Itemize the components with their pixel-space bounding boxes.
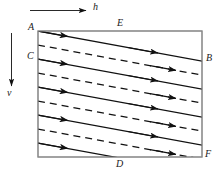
streamline-solid [38, 31, 212, 63]
streamline-dashed [38, 101, 212, 133]
vertex-label-c: C [27, 51, 34, 61]
vertex-label-e: E [117, 18, 123, 28]
vertex-label-b: B [206, 53, 212, 63]
vertex-label-a: A [28, 22, 34, 32]
streamline-solid [38, 87, 212, 119]
axis-label-h: h [93, 2, 98, 12]
shear-flow-figure: h v A C E B D F [0, 0, 222, 183]
streamline-dashed [38, 73, 212, 105]
streamline-solid [38, 115, 212, 147]
streamline-dashed [38, 45, 212, 77]
vertex-label-d: D [116, 159, 123, 169]
vertex-label-f: F [205, 149, 211, 159]
streamline-solid [38, 143, 212, 175]
streamline-solid [38, 59, 212, 91]
axis-label-v: v [7, 88, 11, 98]
streamline-dashed [38, 129, 212, 161]
streamline-group [38, 31, 212, 175]
